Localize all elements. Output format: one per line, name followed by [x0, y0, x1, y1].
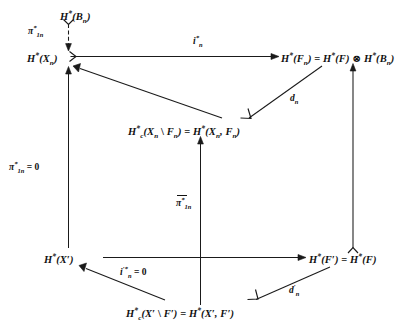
- node-H-star-F-prime: H*(F′) = H*(F): [309, 251, 377, 265]
- node-H-star-Bn-label: H*(Bn): [60, 11, 91, 22]
- label-d-n-text: dn: [290, 93, 298, 103]
- node-H-c-star-Xn-rel-Fn: H*c(Xn \ Fn) = H*(Xn, Fn): [128, 123, 240, 140]
- arrow-Fn-to-middle: [241, 66, 323, 119]
- node-H-star-Xn-label: H*(Xn): [27, 53, 58, 64]
- label-i-n-star-text: i*n: [193, 36, 203, 46]
- node-H-star-Bn: H*(Bn): [60, 8, 91, 25]
- label-d-n-prime: d′n: [289, 283, 299, 297]
- arrow-Fprime-to-Fn: [348, 64, 358, 254]
- node-H-star-X-prime: H*(X′): [44, 251, 74, 265]
- node-H-star-X-prime-label: H*(X′): [44, 254, 74, 265]
- label-i-n-prime-star-zero-text: i′*n = 0: [120, 267, 147, 277]
- arrow-Xprime-to-Fprime: [103, 255, 306, 261]
- arrow-bottom-to-middle: [198, 137, 204, 306]
- label-i-n-prime-star-zero: i′*n = 0: [120, 265, 147, 279]
- node-H-star-Fn-tensor-label: H*(Fn) = H*(F) ⊗ H*(Bn): [281, 53, 394, 64]
- arrow-Xn-to-Fn: [70, 52, 280, 62]
- node-H-star-F-prime-label: H*(F′) = H*(F): [309, 254, 377, 265]
- node-H-star-Fn-tensor: H*(Fn) = H*(F) ⊗ H*(Bn): [281, 50, 394, 67]
- node-H-c-star-Xn-rel-Fn-label: H*c(Xn \ Fn) = H*(Xn, Fn): [128, 126, 240, 137]
- label-pi-1n-star-text: π*1n: [28, 26, 43, 36]
- arrow-middle-to-Xn: [73, 64, 222, 119]
- node-H-star-Xn: H*(Xn): [27, 50, 58, 67]
- label-i-n-star: i*n: [193, 34, 203, 48]
- label-pi-1n-star-zero-text: π*1n = 0: [9, 162, 39, 172]
- label-pi-bar-1n-star-text: π*1n: [176, 196, 191, 210]
- node-H-c-star-X-prime-rel-F-prime-label: H*c(X′ \ F′) = H*(X′, F′): [126, 308, 234, 319]
- arrow-Xprime-to-Xn: [66, 67, 72, 249]
- commutative-diagram: H*(X_n) : hook tail + dashed shaft + sol…: [0, 0, 411, 332]
- node-H-c-star-X-prime-rel-F-prime: H*c(X′ \ F′) = H*(X′, F′): [126, 305, 234, 322]
- label-pi-bar-1n-star: π*1n: [176, 196, 191, 210]
- label-pi-1n-star: π*1n: [28, 24, 43, 38]
- label-pi-1n-star-zero: π*1n = 0: [9, 160, 39, 174]
- label-d-n-prime-text: d′n: [289, 285, 299, 295]
- label-d-n: dn: [290, 93, 298, 105]
